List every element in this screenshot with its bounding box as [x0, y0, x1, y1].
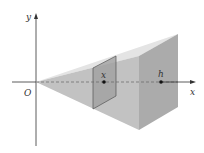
y-axis-label: y	[25, 12, 32, 22]
x-axis-label: x	[190, 87, 195, 97]
origin-label: O	[24, 88, 32, 98]
pyramid-diagram: y x O x h	[0, 0, 204, 153]
end-point	[159, 80, 163, 84]
y-axis-arrow-icon	[34, 13, 38, 19]
end-label: h	[158, 69, 164, 79]
slice-label: x	[101, 70, 106, 80]
x-axis-arrow-icon	[190, 80, 196, 84]
slice-point	[102, 80, 106, 84]
